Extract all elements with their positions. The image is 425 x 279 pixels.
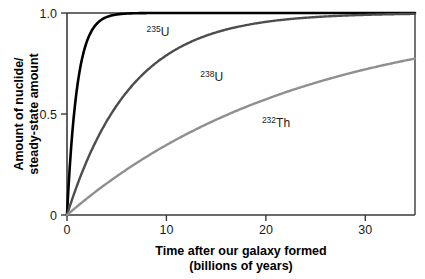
series-label-238u: 238U bbox=[200, 69, 223, 84]
x-ticklabel-20: 20 bbox=[259, 223, 273, 237]
plot-frame bbox=[67, 13, 415, 215]
axis-titles: Time after our galaxy formed (billions o… bbox=[12, 52, 327, 273]
x-axis-ticks: 0 10 20 30 bbox=[64, 215, 373, 237]
y-axis-title-line1: Amount of nuclide/ bbox=[12, 57, 26, 171]
series-line-232th bbox=[67, 59, 415, 215]
y-ticklabel-0: 0 bbox=[50, 209, 57, 223]
chart-figure: 1.0 0.5 0 0 10 20 30 235U 238U bbox=[0, 0, 425, 279]
series-annotations: 235U 238U 232Th bbox=[147, 24, 291, 130]
chart-svg: 1.0 0.5 0 0 10 20 30 235U 238U bbox=[0, 0, 425, 279]
x-axis-title-line1: Time after our galaxy formed bbox=[155, 244, 326, 258]
x-ticklabel-0: 0 bbox=[64, 223, 71, 237]
y-ticklabel-1: 1.0 bbox=[40, 7, 57, 21]
y-ticklabel-0_5: 0.5 bbox=[40, 108, 57, 122]
x-ticklabel-10: 10 bbox=[159, 223, 173, 237]
series-group bbox=[67, 13, 415, 215]
y-axis-title-line2: steady-state amount bbox=[27, 52, 41, 174]
x-axis-title-line2: (billions of years) bbox=[189, 259, 293, 273]
series-line-235u bbox=[67, 13, 415, 215]
y-axis-ticks: 1.0 0.5 0 bbox=[40, 7, 67, 223]
series-label-232th: 232Th bbox=[262, 115, 290, 130]
series-line-238u bbox=[67, 14, 415, 215]
x-ticklabel-30: 30 bbox=[358, 223, 372, 237]
series-label-235u: 235U bbox=[147, 24, 170, 39]
